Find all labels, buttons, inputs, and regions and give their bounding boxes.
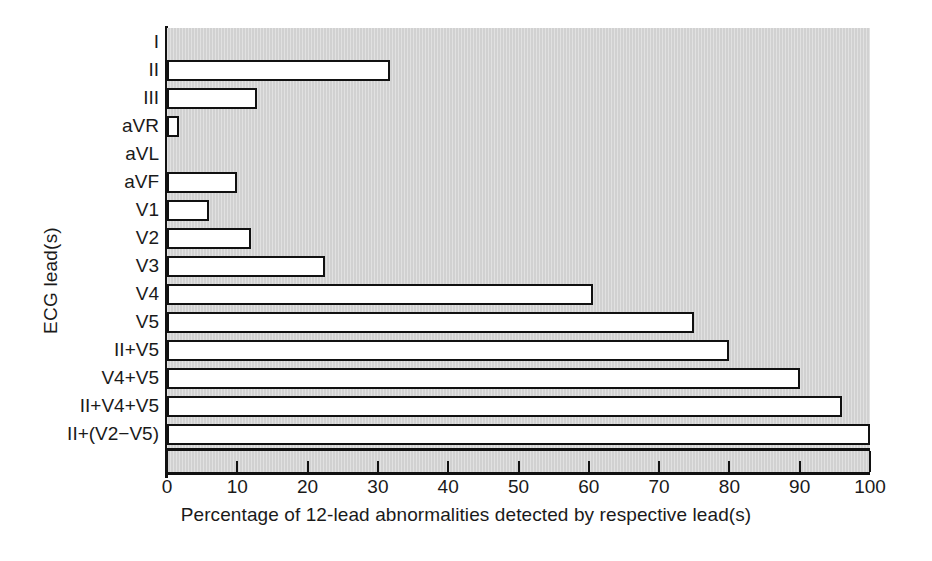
x-axis-tick-label: 80 <box>719 476 740 498</box>
x-axis-tick <box>166 451 168 472</box>
bar <box>167 172 237 193</box>
bar <box>167 368 800 389</box>
y-axis-tick-label: V4+V5 <box>101 364 159 392</box>
y-axis-tick-label: II+V5 <box>114 336 159 364</box>
y-axis-tick-label: V4 <box>136 280 159 308</box>
x-axis-tick <box>236 461 238 472</box>
y-axis-tick-labels: IIIIIIaVRaVLaVFV1V2V3V4V5II+V5V4+V5II+V4… <box>0 28 163 448</box>
bar <box>167 312 694 333</box>
x-axis-tick-label: 10 <box>227 476 248 498</box>
bar <box>167 284 593 305</box>
y-axis-tick-label: aVR <box>122 112 159 140</box>
y-axis-tick-label: aVF <box>124 168 159 196</box>
x-axis-tick-label: 90 <box>789 476 810 498</box>
x-axis-tick-label: 50 <box>508 476 529 498</box>
bar <box>167 228 251 249</box>
bar-chart-figure: ECG lead(s) IIIIIIaVRaVLaVFV1V2V3V4V5II+… <box>0 0 932 561</box>
plot-area <box>167 28 870 448</box>
y-axis-tick-label: I <box>154 28 159 56</box>
x-axis-tick <box>518 461 520 472</box>
x-axis-tick-labels: 0102030405060708090100 <box>167 476 870 504</box>
x-axis-tick-label: 60 <box>578 476 599 498</box>
x-axis-tick-label: 100 <box>854 476 886 498</box>
x-axis-tick <box>869 451 871 472</box>
bar <box>167 60 390 81</box>
y-axis-tick-label: V1 <box>136 196 159 224</box>
x-axis-tick-label: 30 <box>367 476 388 498</box>
x-axis-tick <box>447 461 449 472</box>
bar <box>167 424 870 445</box>
y-axis-tick-label: II+(V2−V5) <box>67 420 159 448</box>
x-axis-tick-label: 40 <box>438 476 459 498</box>
x-axis-tick <box>728 461 730 472</box>
x-axis-tick-label: 20 <box>297 476 318 498</box>
y-axis-tick-label: V3 <box>136 252 159 280</box>
bar <box>167 396 842 417</box>
bar <box>167 116 179 137</box>
x-axis-tick <box>588 461 590 472</box>
y-axis-tick-label: V2 <box>136 224 159 252</box>
y-axis-tick-label: V5 <box>136 308 159 336</box>
x-axis-tick-label: 0 <box>162 476 173 498</box>
x-axis-tick <box>799 461 801 472</box>
bar <box>167 88 257 109</box>
bar <box>167 200 209 221</box>
bar <box>167 340 729 361</box>
x-axis-tick <box>658 461 660 472</box>
x-axis-tick <box>377 461 379 472</box>
x-axis-tick <box>307 461 309 472</box>
y-axis-tick-label: aVL <box>125 140 159 168</box>
x-axis-title: Percentage of 12-lead abnormalities dete… <box>0 504 932 526</box>
y-axis-tick-label: III <box>143 84 159 112</box>
y-axis-tick-label: II+V4+V5 <box>80 392 159 420</box>
bar <box>167 256 325 277</box>
x-axis-tick-label: 70 <box>649 476 670 498</box>
x-axis-band <box>167 448 870 475</box>
y-axis-tick-label: II <box>148 56 159 84</box>
